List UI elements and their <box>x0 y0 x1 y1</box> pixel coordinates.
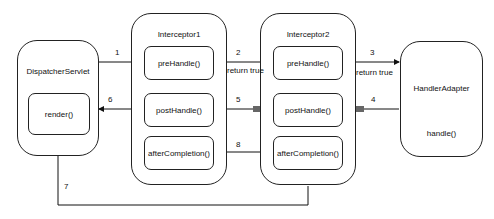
step-5-label: 5 <box>236 95 240 104</box>
interceptor1-prehandle: preHandle() <box>144 46 214 80</box>
interceptor2-posthandle: postHandle() <box>273 93 343 127</box>
interceptor2-aftercompletion: afterCompletion() <box>273 136 343 170</box>
dispatcher-title: DispatcherServlet <box>18 67 98 76</box>
adapter-title: HandlerAdapter <box>401 84 482 93</box>
interceptor1-aftercompletion: afterCompletion() <box>144 136 214 170</box>
interceptor2-title: Interceptor2 <box>261 30 355 39</box>
step-8-label: 8 <box>236 140 240 149</box>
step-3-label: 3 <box>370 48 374 57</box>
interceptor1-posthandle: postHandle() <box>144 93 214 127</box>
interceptor2-prehandle: preHandle() <box>273 46 343 80</box>
aftercompletion-label: afterCompletion() <box>277 149 339 158</box>
interceptor2: Interceptor2 preHandle() postHandle() af… <box>260 13 356 185</box>
interceptor1: Interceptor1 preHandle() postHandle() af… <box>131 13 227 185</box>
step-6-label: 6 <box>108 95 112 104</box>
return-true-2: return true <box>356 68 393 77</box>
render-box: render() <box>28 93 90 135</box>
prehandle-label: preHandle() <box>158 59 200 68</box>
step-4-label: 4 <box>371 95 375 104</box>
handler-adapter: HandlerAdapter handle() <box>400 41 483 157</box>
step-7-label: 7 <box>64 182 68 191</box>
prehandle-label: preHandle() <box>287 59 329 68</box>
handle-label: handle() <box>401 129 482 138</box>
step-1-label: 1 <box>115 48 119 57</box>
dispatcher-servlet: DispatcherServlet render() <box>17 40 99 156</box>
return-true-1: return true <box>227 66 264 75</box>
render-label: render() <box>45 110 73 119</box>
posthandle-label: postHandle() <box>285 106 331 115</box>
aftercompletion-label: afterCompletion() <box>148 149 210 158</box>
interceptor1-title: Interceptor1 <box>132 30 226 39</box>
posthandle-label: postHandle() <box>156 106 202 115</box>
step-2-label: 2 <box>236 48 240 57</box>
